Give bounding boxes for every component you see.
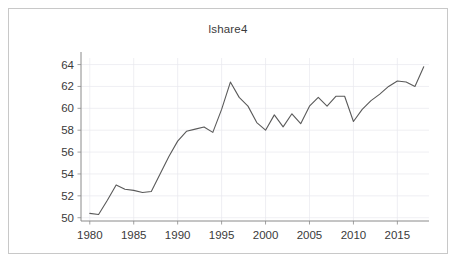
x-tick-label: 1980 (77, 229, 103, 241)
y-tick-label: 50 (61, 212, 74, 224)
y-tick-label: 54 (61, 168, 74, 180)
x-axis-tick-marks (90, 221, 398, 225)
x-tick-label: 2000 (253, 229, 279, 241)
y-tick-label: 60 (61, 102, 74, 114)
x-tick-label: 1990 (165, 229, 191, 241)
x-tick-label: 2015 (385, 229, 411, 241)
data-series-lshare4 (90, 67, 424, 215)
x-axis-tick-labels: 19801985199019952000200520102015 (77, 229, 410, 241)
y-tick-label: 62 (61, 80, 74, 92)
y-axis-tick-labels: 5052545658606264 (61, 59, 74, 224)
x-tick-label: 2010 (341, 229, 367, 241)
x-tick-label: 1995 (209, 229, 235, 241)
x-tick-label: 2005 (297, 229, 323, 241)
figure-panel: lshare4 5052545658606264 198019851990199… (8, 8, 448, 254)
y-tick-label: 64 (61, 59, 74, 71)
y-tick-label: 52 (61, 190, 74, 202)
y-tick-label: 56 (61, 146, 74, 158)
x-tick-label: 1985 (121, 229, 147, 241)
line-chart: 5052545658606264 19801985199019952000200… (9, 9, 449, 255)
horizontal-gridlines (81, 65, 429, 218)
y-axis-tick-marks (78, 65, 82, 218)
y-tick-label: 58 (61, 124, 74, 136)
vertical-gridlines (90, 58, 398, 221)
